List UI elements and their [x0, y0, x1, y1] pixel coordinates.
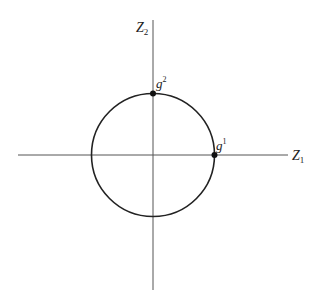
z2-axis-label: Z2 [136, 20, 148, 37]
diagram-canvas: Z2 Z1 g1 g2 [0, 0, 321, 297]
point-g2 [150, 91, 156, 97]
g2-label: g2 [156, 75, 167, 91]
z1-axis-label: Z1 [292, 148, 304, 165]
g1-label: g1 [216, 137, 227, 153]
